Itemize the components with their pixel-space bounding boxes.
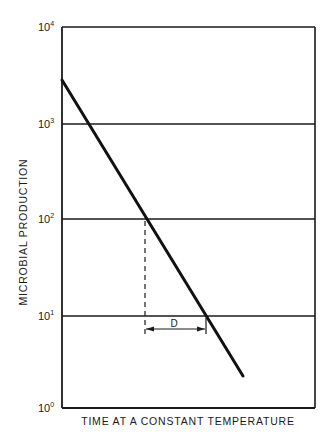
plot-frame xyxy=(62,27,315,408)
y-tick-labels: 104 103 102 101 100 xyxy=(38,20,54,414)
y-tick-1e2: 102 xyxy=(38,212,54,225)
d-label: D xyxy=(170,318,177,329)
y-tick-1e1: 101 xyxy=(38,309,54,322)
x-axis-label: TIME AT A CONSTANT TEMPERATURE xyxy=(81,415,295,427)
chart: 104 103 102 101 100 MICROBIAL PRODUCTION… xyxy=(0,0,333,448)
y-tick-1e4: 104 xyxy=(38,20,54,33)
y-axis-label: MICROBIAL PRODUCTION xyxy=(17,159,29,306)
y-tick-1e3: 103 xyxy=(38,117,54,130)
y-tick-1e0: 100 xyxy=(38,401,54,414)
